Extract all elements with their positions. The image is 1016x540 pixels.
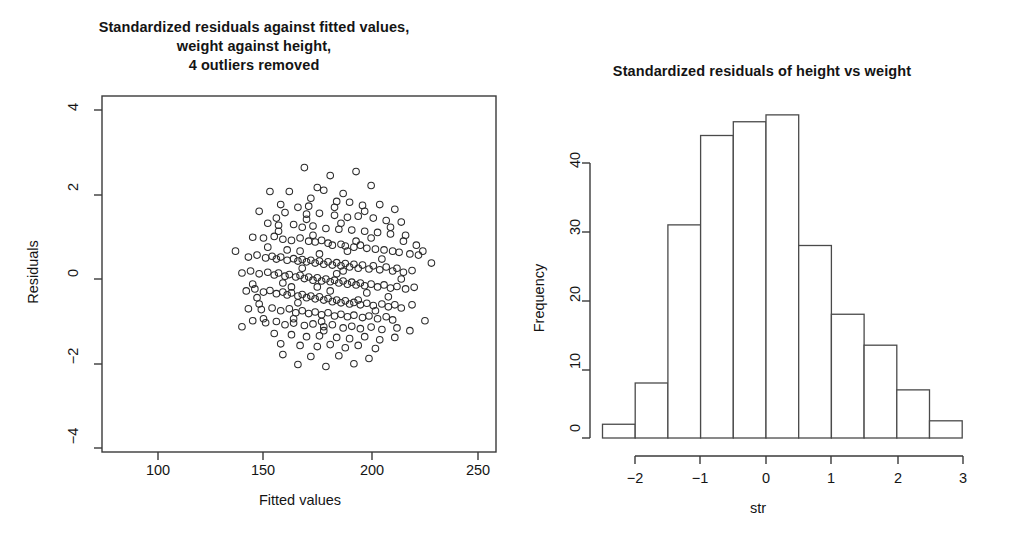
histogram-bar	[930, 421, 963, 438]
histogram-bar	[701, 136, 734, 439]
scatter-point	[303, 333, 310, 340]
scatter-point	[267, 188, 274, 195]
scatter-panel: Standardized residuals against fitted va…	[0, 0, 508, 540]
scatter-point	[314, 343, 321, 350]
scatter-point	[392, 334, 399, 341]
scatter-point	[396, 249, 403, 256]
scatter-point	[318, 237, 325, 244]
scatter-point	[392, 302, 399, 309]
scatter-point	[290, 315, 297, 322]
scatter-point	[247, 268, 254, 275]
scatter-point	[277, 307, 284, 314]
scatter-point	[295, 293, 302, 300]
scatter-point	[383, 217, 390, 224]
scatter-point	[361, 208, 368, 215]
scatter-point	[355, 342, 362, 349]
scatter-point	[340, 190, 347, 197]
histogram-panel: Standardized residuals of height vs weig…	[508, 0, 1016, 540]
scatter-point	[239, 323, 246, 330]
scatter-point	[351, 312, 358, 319]
scatter-point	[400, 269, 407, 276]
scatter-point	[282, 209, 289, 216]
scatter-point	[273, 290, 280, 297]
scatter-point	[348, 323, 355, 330]
scatter-point	[370, 215, 377, 222]
scatter-point	[320, 327, 327, 334]
scatter-point	[355, 213, 362, 220]
scatter-point	[381, 282, 388, 289]
histogram-bar	[603, 424, 636, 438]
histogram-bar	[831, 314, 864, 438]
scatter-point	[262, 255, 269, 262]
scatter-point	[267, 287, 274, 294]
scatter-point	[353, 238, 360, 245]
scatter-point	[254, 252, 261, 259]
scatter-point	[346, 199, 353, 206]
scatter-point	[420, 248, 427, 255]
scatter-point	[376, 201, 383, 208]
scatter-point	[383, 264, 390, 271]
scatter-point	[264, 220, 271, 227]
scatter-point	[379, 256, 386, 263]
scatter-point	[344, 214, 351, 221]
histogram-bar	[766, 115, 799, 438]
scatter-point	[299, 265, 306, 272]
scatter-point	[305, 310, 312, 317]
scatter-point	[323, 225, 330, 232]
scatter-point	[387, 231, 394, 238]
scatter-point	[299, 224, 306, 231]
scatter-point	[368, 182, 375, 189]
scatter-point	[338, 311, 345, 318]
scatter-point	[249, 317, 256, 324]
scatter-point	[357, 325, 364, 332]
scatter-point	[271, 330, 278, 337]
scatter-point	[385, 304, 392, 311]
scatter-point	[394, 325, 401, 332]
scatter-point	[385, 294, 392, 301]
scatter-point	[295, 204, 302, 211]
scatter-plot-area	[0, 0, 508, 540]
scatter-point	[376, 267, 383, 274]
scatter-point	[376, 337, 383, 344]
scatter-point	[327, 288, 334, 295]
scatter-point	[366, 313, 373, 320]
scatter-point	[409, 302, 416, 309]
scatter-point	[407, 327, 414, 334]
scatter-point	[299, 307, 306, 314]
scatter-point	[338, 241, 345, 248]
scatter-point	[411, 284, 418, 291]
scatter-point	[364, 290, 371, 297]
scatter-point	[422, 317, 429, 324]
scatter-point	[262, 319, 269, 326]
scatter-point	[245, 254, 252, 261]
scatter-point	[310, 232, 317, 239]
scatter-point	[320, 187, 327, 194]
scatter-point	[379, 326, 386, 333]
scatter-point	[415, 252, 422, 259]
scatter-point	[344, 313, 351, 320]
scatter-point	[398, 219, 405, 226]
scatter-point	[374, 315, 381, 322]
histogram-plot-area	[508, 0, 1016, 540]
histogram-bar-group	[603, 115, 963, 438]
scatter-point	[301, 322, 308, 329]
scatter-point	[331, 212, 338, 219]
scatter-point	[364, 245, 371, 252]
scatter-point	[368, 235, 375, 242]
scatter-point	[327, 341, 334, 348]
scatter-point	[351, 360, 358, 367]
scatter-point	[387, 285, 394, 292]
scatter-point	[389, 248, 396, 255]
scatter-point	[398, 305, 405, 312]
scatter-point	[338, 220, 345, 227]
scatter-point	[295, 300, 302, 307]
scatter-point	[243, 288, 250, 295]
scatter-point	[381, 247, 388, 254]
scatter-point	[286, 188, 293, 195]
scatter-point	[290, 221, 297, 228]
scatter-point	[353, 168, 360, 175]
scatter-point	[288, 331, 295, 338]
scatter-point	[292, 274, 299, 281]
scatter-point	[260, 315, 267, 322]
scatter-point	[308, 353, 315, 360]
